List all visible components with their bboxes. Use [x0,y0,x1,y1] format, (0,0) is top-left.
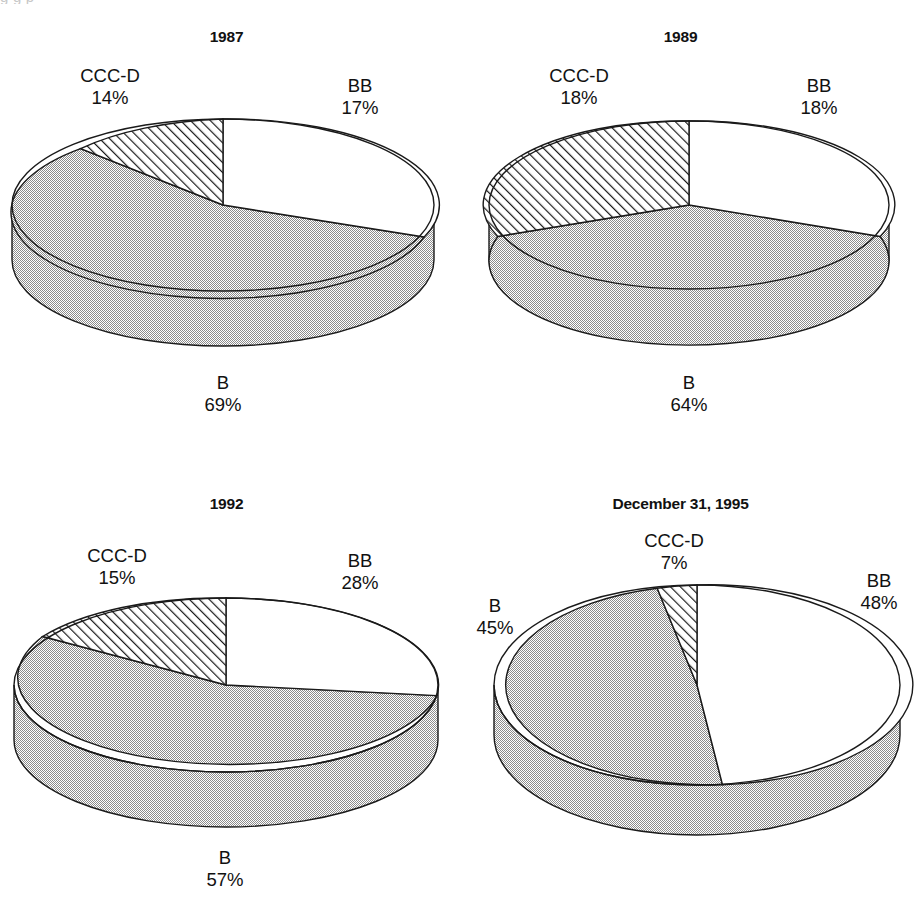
pie-label-bb-1987: BB 17% [305,75,415,119]
pie-label-bb-1995: BB 48% [844,570,914,614]
pie-panel-1989: 1989 CCC-D [454,20,907,440]
clipped-text-fragment: g g p [0,0,907,4]
pie-panel-1987: 1987 [0,20,453,440]
pie-label-b-1992: B 57% [170,847,280,891]
pie-label-bb-1989: BB 18% [764,75,874,119]
pie-label-bb-1992: BB 28% [305,550,415,594]
pie-panel-1995: December 31, 1995 [454,490,907,907]
pie-label-b-1987: B 69% [168,372,278,416]
pie-label-cccd-1987: CCC-D 14% [55,65,165,109]
pie-label-b-1995: B 45% [460,595,530,639]
pie-label-cccd-1992: CCC-D 15% [62,545,172,589]
pie-panel-1992: 1992 [0,490,453,907]
pie-label-b-1989: B 64% [634,372,744,416]
pie-label-cccd-1995: CCC-D 7% [619,530,729,574]
pie-label-cccd-1989: CCC-D 18% [524,65,634,109]
